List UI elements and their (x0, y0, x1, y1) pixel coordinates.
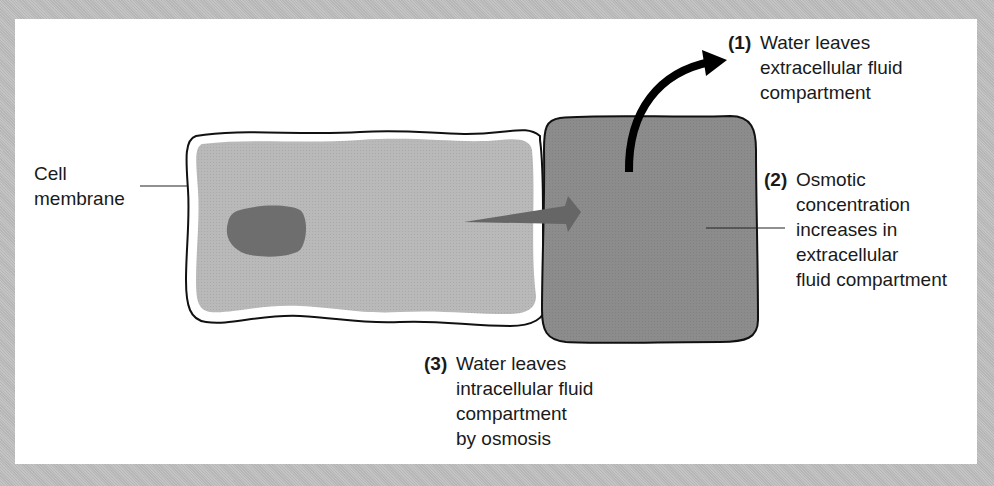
step1-label: (1) Water leaves extracellular fluid com… (728, 30, 903, 105)
cell-membrane-label: Cell membrane (34, 161, 125, 211)
step2-label: (2) Osmotic concentration increases in e… (764, 167, 947, 292)
step3-line-2: intracellular fluid (456, 376, 593, 401)
step2-line-3: increases in (796, 217, 947, 242)
cell-membrane-line-2: membrane (34, 186, 125, 211)
step3-line-1: Water leaves (456, 351, 593, 376)
step3-line-3: compartment (456, 401, 593, 426)
step3-line-4: by osmosis (456, 426, 593, 451)
cell-membrane-line-1: Cell (34, 161, 125, 186)
step2-number: (2) (764, 167, 787, 192)
step3-number: (3) (424, 351, 447, 376)
step1-line-3: compartment (760, 80, 903, 105)
step2-line-1: Osmotic (796, 167, 947, 192)
step2-line-4: extracellular (796, 242, 947, 267)
step3-label: (3) Water leaves intracellular fluid com… (424, 351, 593, 451)
step1-line-1: Water leaves (760, 30, 903, 55)
intracellular-cell (186, 130, 546, 326)
step2-line-5: fluid compartment (796, 267, 947, 292)
step1-number: (1) (728, 30, 751, 55)
step2-line-2: concentration (796, 192, 947, 217)
nucleus (227, 206, 306, 257)
extracellular-compartment (542, 116, 758, 343)
step1-line-2: extracellular fluid (760, 55, 903, 80)
